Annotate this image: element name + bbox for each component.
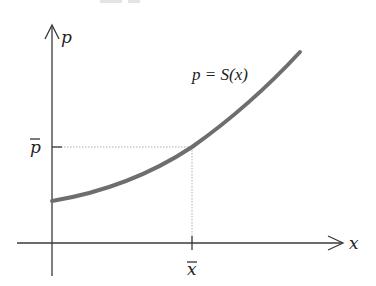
supply-diagram: p x p = S(x) p x <box>0 0 376 286</box>
x-axis-label: x <box>349 233 359 253</box>
y-axis-label: p <box>61 27 72 47</box>
supply-curve <box>52 52 300 201</box>
cropped-text-remnant <box>128 0 140 3</box>
cropped-text-remnant <box>100 0 122 3</box>
curve-label: p = S(x) <box>191 65 248 84</box>
equilibrium-price-label: p <box>30 137 41 157</box>
